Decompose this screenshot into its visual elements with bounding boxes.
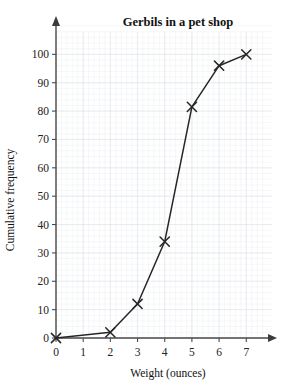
- chart-canvas: Gerbils in a pet shop 010203040506070809…: [0, 0, 306, 386]
- x-tick-label: 0: [53, 346, 59, 358]
- x-tick-label: 5: [189, 346, 195, 358]
- y-tick-label: 30: [38, 247, 50, 259]
- x-axis-title: Weight (ounces): [130, 367, 206, 380]
- y-tick-label: 100: [32, 48, 50, 60]
- x-tick-label: 6: [216, 346, 222, 358]
- x-tick-label: 7: [243, 346, 249, 358]
- y-tick-label: 90: [38, 77, 50, 89]
- x-tick-label: 3: [135, 346, 141, 358]
- chart-title: Gerbils in a pet shop: [123, 15, 233, 29]
- y-tick-label: 20: [38, 275, 50, 287]
- x-tick-label: 2: [107, 346, 113, 358]
- y-tick-label: 60: [38, 162, 50, 174]
- y-tick-label: 70: [38, 133, 50, 145]
- y-tick-label: 80: [38, 105, 50, 117]
- y-tick-label: 0: [43, 332, 49, 344]
- y-tick-label: 50: [38, 190, 50, 202]
- y-tick-label: 10: [38, 304, 50, 316]
- x-tick-label: 4: [162, 346, 168, 358]
- y-axis-title: Cumulative frequency: [4, 149, 17, 252]
- x-tick-label: 1: [80, 346, 86, 358]
- y-tick-label: 40: [38, 219, 50, 231]
- cumulative-frequency-chart: Gerbils in a pet shop 010203040506070809…: [0, 0, 306, 386]
